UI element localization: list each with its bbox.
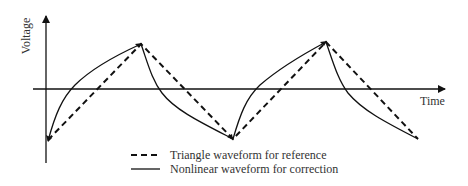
waveform-diagram: Voltage Time Triangle waveform for refer… [0, 0, 468, 186]
legend-triangle-label: Triangle waveform for reference [170, 148, 326, 162]
y-axis-label: Voltage [19, 18, 33, 54]
legend-nonlinear-label: Nonlinear waveform for correction [170, 162, 338, 176]
triangle-waveform [48, 42, 418, 140]
nonlinear-waveform [48, 42, 418, 141]
legend: Triangle waveform for reference Nonlinea… [131, 148, 338, 176]
x-axis-label: Time [420, 94, 445, 108]
